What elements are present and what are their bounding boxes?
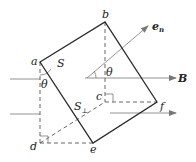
label-field-b: B — [177, 72, 187, 85]
label-a: a — [31, 55, 38, 68]
label-f: f — [159, 100, 166, 113]
label-c: c — [96, 90, 102, 103]
label-theta-left: θ — [41, 78, 48, 91]
right-angle-c — [105, 94, 113, 102]
label-normal-vector: en — [152, 20, 164, 34]
label-e: e — [90, 143, 97, 156]
label-projected-area: S⊥ — [74, 100, 88, 115]
label-b: b — [102, 8, 109, 21]
label-area-s: S — [57, 57, 65, 70]
label-theta-right: θ — [106, 66, 113, 79]
normal-vector-arrow — [87, 26, 148, 78]
angle-arc-right — [94, 71, 96, 78]
dashed-line-dc — [40, 102, 105, 143]
loop-abfe — [40, 22, 157, 143]
label-d: d — [30, 140, 37, 153]
diagram-canvas: a b c d e f S S⊥ en B θ θ — [0, 0, 196, 162]
